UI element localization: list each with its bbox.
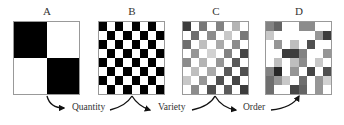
- caption-order: Order: [243, 102, 265, 112]
- arrow-variety-to-c: [192, 96, 215, 110]
- caption-quantity: Quantity: [72, 102, 105, 112]
- caption-variety: Variety: [158, 102, 185, 112]
- arrow-c-to-order: [215, 96, 236, 110]
- arrow-order-to-d: [271, 96, 299, 110]
- arrow-quantity-to-b: [110, 96, 132, 110]
- arrow-b-to-variety: [132, 96, 150, 110]
- arrow-a-to-quantity: [47, 96, 64, 108]
